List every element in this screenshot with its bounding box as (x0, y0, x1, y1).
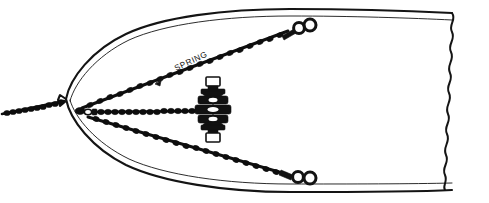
deck-ring-pair-lower (279, 170, 316, 184)
hull-deckline-upper (70, 16, 452, 101)
anchor-chain-forward (2, 100, 64, 116)
anchoring-diagram: SPRING (0, 0, 489, 203)
turnbuckle-shackle-assembly (195, 77, 231, 142)
torn-break-line (444, 13, 454, 190)
chain-centerline-run (96, 108, 202, 114)
eye-fitting-bottom (206, 133, 220, 142)
bow-junction-shackle (75, 108, 97, 115)
bridle-leg-lower (88, 116, 286, 176)
bridle-leg-upper-spring (82, 31, 288, 108)
deck-ring-pair-upper (282, 19, 316, 40)
label-spring: SPRING (155, 50, 209, 86)
hull-outline-upper (66, 9, 452, 99)
eye-fitting-top (206, 77, 220, 86)
